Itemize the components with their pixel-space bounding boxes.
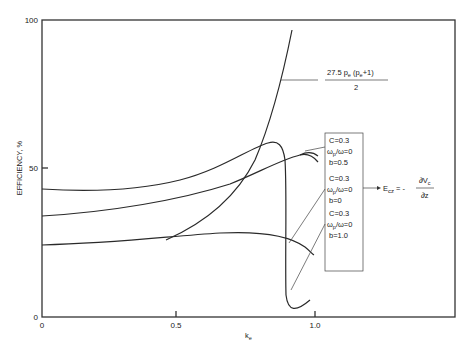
- svg-text:27.5 pe(pe+1): 27.5 pe(pe+1): [327, 68, 374, 78]
- svg-text:C=0.3: C=0.3: [329, 174, 349, 183]
- leader-b05: [305, 147, 325, 151]
- y-tick-label-50: 50: [29, 164, 38, 173]
- curve-b-0: [42, 154, 318, 216]
- ecz-annotation: Ecz= - ∂Vc ∂z: [383, 176, 434, 200]
- svg-text:∂Vc: ∂Vc: [419, 176, 431, 186]
- y-tick-label-0: 0: [34, 313, 39, 322]
- y-tick-label-100: 100: [25, 16, 39, 25]
- svg-text:ωp/ω=0: ωp/ω=0: [327, 220, 352, 230]
- svg-text:C=0.3: C=0.3: [329, 136, 349, 145]
- curve-b-1-0: [42, 233, 314, 255]
- svg-text:b=1.0: b=1.0: [329, 231, 348, 240]
- legend-entry-b0: C=0.3 ωp/ω=0 b=0: [327, 174, 352, 205]
- svg-text:b=0.5: b=0.5: [329, 158, 348, 167]
- svg-text:2: 2: [354, 83, 358, 92]
- svg-text:C=0.3: C=0.3: [329, 209, 349, 218]
- arrow-head-icon: [377, 186, 381, 190]
- plot-frame: [42, 20, 455, 317]
- legend-entry-b05: C=0.3 ωp/ω=0 b=0.5: [327, 136, 352, 167]
- x-tick-label-05: 0.5: [170, 321, 182, 330]
- curve-formula: [166, 30, 292, 240]
- svg-text:ωp/ω=0: ωp/ω=0: [327, 147, 352, 157]
- x-tick-label-0: 0: [40, 321, 45, 330]
- svg-text:∂z: ∂z: [421, 191, 429, 200]
- legend-entry-b10: C=0.3 ωp/ω=0 b=1.0: [327, 209, 352, 240]
- efficiency-chart: 100 50 0 0 0.5 1.0 EFFICIENCY, % ke 27.5…: [0, 0, 473, 353]
- x-tick-label-10: 1.0: [309, 321, 321, 330]
- curve-b-0-5: [42, 142, 310, 308]
- svg-text:Ecz= -: Ecz= -: [383, 184, 405, 194]
- svg-text:b=0: b=0: [329, 196, 342, 205]
- y-axis-title: EFFICIENCY, %: [15, 140, 24, 195]
- svg-text:ωp/ω=0: ωp/ω=0: [327, 185, 352, 195]
- formula-annotation: 27.5 pe(pe+1) 2: [325, 68, 388, 92]
- x-axis-title: ke: [245, 331, 252, 341]
- leader-b10: [291, 224, 325, 290]
